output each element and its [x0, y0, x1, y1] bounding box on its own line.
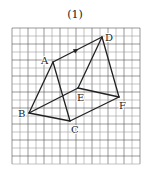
edge-BC — [29, 113, 70, 121]
vertex-label-A: A — [40, 55, 49, 66]
vertex-label-D: D — [105, 32, 113, 43]
edge-AC — [53, 62, 70, 121]
vertex-label-B: B — [18, 108, 25, 119]
edge-DF — [102, 37, 119, 97]
vertex-label-C: C — [71, 124, 79, 135]
prism-diagram: ABCDEF — [0, 0, 150, 175]
grid-background — [12, 28, 140, 164]
edge-DE — [78, 37, 102, 88]
vertex-label-E: E — [77, 92, 84, 103]
edge-AB — [29, 62, 53, 113]
vertex-label-F: F — [119, 100, 126, 111]
